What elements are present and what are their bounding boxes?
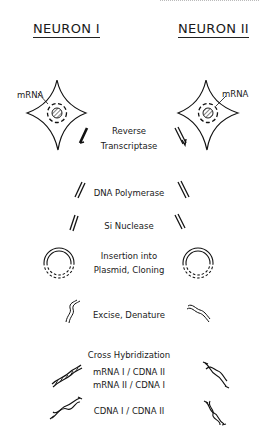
step-reverse-transcriptase-line1: Reverse [79, 127, 179, 136]
step-si-nuclease: Si Nuclease [79, 222, 179, 231]
hybrid-pair-3: CDNA I / CDNA II [79, 407, 179, 416]
step-dna-polymerase: DNA Polymerase [79, 189, 179, 198]
step-cross-hybridization: Cross Hybridization [74, 351, 184, 360]
mrna-label-right: mRNA [222, 90, 248, 99]
step-insertion-line2: Plasmid, Cloning [79, 266, 179, 275]
step-insertion-line1: Insertion into [79, 252, 179, 261]
hybrid-pair-2: mRNA II / CDNA I [79, 381, 179, 390]
mrna-label-left: mRNA [17, 91, 43, 100]
hybrid-pair-1: mRNA I / CDNA II [79, 368, 179, 377]
step-reverse-transcriptase-line2: Transcriptase [79, 142, 179, 151]
step-excise-denature: Excise, Denature [79, 311, 179, 320]
